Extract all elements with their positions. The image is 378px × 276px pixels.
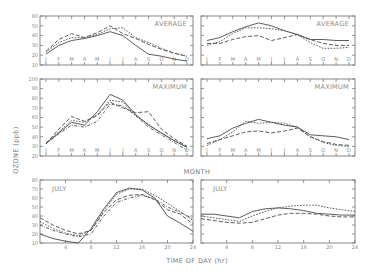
x-tick-label: N — [334, 147, 338, 153]
x-tick-label: 4 — [64, 244, 67, 250]
x-tick-label: 20 — [326, 244, 332, 250]
x-tick-label: M — [69, 56, 73, 62]
x-tick-label: M — [95, 56, 99, 62]
x-tick-label: J — [121, 147, 123, 153]
y-tick-label: 100 — [28, 76, 38, 82]
x-tick-label: A — [134, 56, 138, 62]
y-tick-label: 60 — [32, 114, 38, 120]
x-tick-label: 24 — [352, 244, 358, 250]
x-tick-label: J — [205, 56, 207, 62]
x-tick-label: 20 — [164, 244, 170, 250]
x-tick-label: 8 — [251, 244, 254, 250]
series-line-long-dash — [40, 194, 193, 234]
x-tick-label: J — [108, 147, 110, 153]
series-line-short-dash — [207, 28, 349, 49]
x-tick-label: A — [296, 56, 300, 62]
x-tick-label: S — [309, 56, 312, 62]
series-line-short-dash — [46, 100, 187, 147]
x-tick-label: D — [347, 56, 351, 62]
x-tick-label: A — [244, 56, 248, 62]
y-tick-label: 80 — [32, 95, 38, 101]
y-tick-label: 40 — [32, 213, 38, 219]
x-tick-label: S — [147, 147, 150, 153]
y-tick-label: 90 — [32, 85, 38, 91]
y-tick-label: 20 — [32, 231, 38, 237]
x-tick-label: S — [309, 147, 312, 153]
x-tick-label: 8 — [89, 244, 92, 250]
x-tick-label: M — [256, 147, 260, 153]
x-tick-label: O — [321, 147, 325, 153]
series-line-long-dash — [46, 26, 187, 56]
series-line-dash-dot — [46, 104, 187, 150]
y-tick-label: 10 — [32, 240, 38, 246]
x-tick-label: F — [57, 56, 60, 62]
x-tick-label: M — [231, 56, 235, 62]
x-tick-label: F — [57, 147, 60, 153]
ozone-figure: OZONE (ppb) MONTH TIME OF DAY (hr) 10203… — [0, 0, 378, 276]
x-tick-label: J — [270, 147, 272, 153]
panel-label: JULY — [212, 185, 228, 193]
panel-middle-right: JFMAMJJASONDMAXIMUM — [201, 79, 355, 156]
x-tick-label: 4 — [225, 244, 228, 250]
x-tick-label: J — [121, 56, 123, 62]
x-tick-label: A — [134, 147, 138, 153]
x-tick-label: J — [283, 147, 285, 153]
panel-middle-left: 2030405060708090100JFMAMJJASONDMAXIMUM — [28, 76, 193, 159]
y-tick-label: 20 — [32, 52, 38, 58]
y-tick-label: 10 — [32, 62, 38, 68]
x-tick-label: 12 — [113, 244, 119, 250]
panel-label: MAXIMUM — [153, 83, 188, 91]
x-tick-label: N — [172, 147, 176, 153]
x-tick-label: 12 — [275, 244, 281, 250]
y-tick-label: 50 — [32, 23, 38, 29]
x-tick-label: 16 — [139, 244, 145, 250]
x-tick-label: J — [283, 56, 285, 62]
y-tick-label: 30 — [32, 222, 38, 228]
y-tick-label: 80 — [32, 177, 38, 183]
panel-label: JULY — [51, 185, 67, 193]
x-tick-label: M — [231, 147, 235, 153]
panel-label: AVERAGE — [317, 20, 349, 28]
x-tick-label: J — [108, 56, 110, 62]
y-tick-label: 70 — [32, 105, 38, 111]
x-tick-label: O — [321, 56, 325, 62]
y-tick-label: 40 — [32, 134, 38, 140]
y-tick-label: 20 — [32, 153, 38, 159]
x-tick-label: J — [205, 147, 207, 153]
series-line-dash-dot — [40, 195, 193, 236]
y-tick-label: 40 — [32, 32, 38, 38]
x-tick-label: S — [147, 56, 150, 62]
panel-bottom-right: 4812162024JULY — [201, 180, 358, 250]
x-tick-label: J — [44, 56, 46, 62]
x-tick-label: A — [83, 147, 87, 153]
x-tick-label: D — [347, 147, 351, 153]
x-tick-label: A — [83, 56, 87, 62]
panel-top-right: JFMAMJJASONDAVERAGE — [201, 16, 355, 65]
series-line-short-dash — [40, 189, 193, 236]
y-tick-label: 70 — [32, 186, 38, 192]
time-axis-title: TIME OF DAY (hr) — [165, 257, 228, 265]
x-tick-label: F — [218, 147, 221, 153]
x-tick-label: J — [44, 147, 46, 153]
y-tick-label: 30 — [32, 42, 38, 48]
y-tick-label: 50 — [32, 124, 38, 130]
x-tick-label: F — [218, 56, 221, 62]
series-line-solid — [40, 188, 193, 243]
panel-label: MAXIMUM — [315, 83, 350, 91]
panel-label: AVERAGE — [155, 20, 187, 28]
y-tick-label: 60 — [32, 13, 38, 19]
panel-bottom-left: 10203040506070804812162024JULY — [32, 177, 197, 250]
x-tick-label: M — [95, 147, 99, 153]
x-tick-label: 16 — [300, 244, 306, 250]
y-tick-label: 50 — [32, 204, 38, 210]
x-tick-label: A — [296, 147, 300, 153]
x-tick-label: A — [244, 147, 248, 153]
x-tick-label: N — [334, 56, 338, 62]
y-tick-label: 30 — [32, 143, 38, 149]
panel-top-left: 102030405060JFMAMJJASONDAVERAGE — [32, 13, 193, 68]
x-tick-label: M — [69, 147, 73, 153]
y-axis-title: OZONE (ppb) — [12, 126, 20, 174]
month-axis-title: MONTH — [184, 168, 210, 176]
x-tick-label: M — [256, 56, 260, 62]
x-tick-label: 24 — [190, 244, 196, 250]
